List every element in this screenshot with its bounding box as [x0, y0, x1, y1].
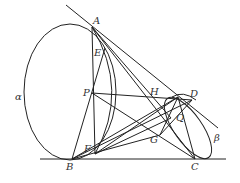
geometry-diagram: A E P H D Q G F B C α β: [0, 0, 240, 183]
label-E: E: [93, 47, 102, 58]
label-P: P: [82, 87, 90, 98]
label-alpha: α: [15, 91, 22, 102]
tangent-line-AD: [66, 5, 218, 128]
label-beta: β: [213, 132, 220, 143]
label-B: B: [65, 161, 73, 172]
label-H: H: [149, 86, 159, 97]
label-G: G: [150, 134, 158, 145]
segment-AQ: [92, 27, 171, 118]
label-Q: Q: [176, 112, 184, 123]
label-F: F: [83, 143, 92, 154]
label-C: C: [191, 161, 199, 172]
label-D: D: [189, 88, 198, 99]
label-A: A: [92, 15, 100, 26]
